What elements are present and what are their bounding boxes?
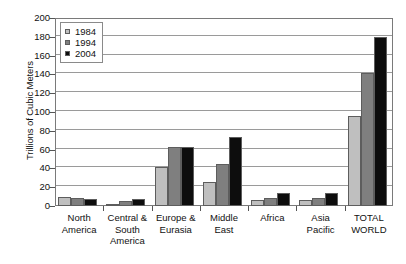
x-axis-label: Africa xyxy=(248,212,296,224)
y-tick-label-180: 180 xyxy=(10,31,50,42)
y-tick-label-200: 200 xyxy=(10,12,50,23)
x-axis-label: MiddleEast xyxy=(200,212,248,235)
y-tick-label-40: 40 xyxy=(10,162,50,173)
x-axis-label-line: Central & xyxy=(103,212,151,224)
x-axis-separator xyxy=(248,206,249,211)
x-axis-label-line: Asia xyxy=(296,212,344,224)
gridline-180 xyxy=(56,35,392,36)
y-tick-label-120: 120 xyxy=(10,87,50,98)
y-tick-label-100: 100 xyxy=(10,106,50,117)
x-axis-label: NorthAmerica xyxy=(55,212,103,235)
gridline-100 xyxy=(56,110,392,111)
gridline-40 xyxy=(56,166,392,167)
x-axis-label-line: Europe & xyxy=(152,212,200,224)
x-axis-separator xyxy=(345,206,346,211)
x-axis-label-line: North xyxy=(55,212,103,224)
x-axis-separator xyxy=(200,206,201,211)
x-axis-label-line: Middle xyxy=(200,212,248,224)
legend-label: 1994 xyxy=(75,37,96,48)
y-tick-label-0: 0 xyxy=(10,200,50,211)
legend-swatch-icon xyxy=(65,51,70,56)
y-tick-label-80: 80 xyxy=(10,125,50,136)
x-axis-label-line: WORLD xyxy=(345,224,393,236)
x-axis-label-line: America xyxy=(103,235,151,247)
bar-chart: Trillions of Cubic Meters 02040608010012… xyxy=(0,0,406,264)
chart-legend: 198419942004 xyxy=(60,22,103,63)
legend-item: 1984 xyxy=(65,26,96,37)
x-axis-label-line: South xyxy=(103,224,151,236)
gridline-160 xyxy=(56,54,392,55)
gridline-120 xyxy=(56,91,392,92)
y-tick-label-140: 140 xyxy=(10,68,50,79)
x-axis-label: AsiaPacific xyxy=(296,212,344,235)
x-axis-label-line: Africa xyxy=(248,212,296,224)
x-axis-label-line: Eurasia xyxy=(152,224,200,236)
y-tick-label-60: 60 xyxy=(10,144,50,155)
legend-swatch-icon xyxy=(65,29,70,34)
x-axis-label: Europe &Eurasia xyxy=(152,212,200,235)
gridline-140 xyxy=(56,72,392,73)
y-tick-label-20: 20 xyxy=(10,181,50,192)
x-axis-separator xyxy=(103,206,104,211)
legend-label: 1984 xyxy=(75,26,96,37)
legend-item: 2004 xyxy=(65,48,96,59)
gridline-20 xyxy=(56,185,392,186)
gridline-60 xyxy=(56,148,392,149)
x-axis-label-line: America xyxy=(55,224,103,236)
y-tick-label-160: 160 xyxy=(10,50,50,61)
x-axis-label: TOTALWORLD xyxy=(345,212,393,235)
gridline-80 xyxy=(56,129,392,130)
x-axis-label-line: Pacific xyxy=(296,224,344,236)
y-tick-mark-0 xyxy=(49,206,55,207)
legend-label: 2004 xyxy=(75,48,96,59)
x-axis-label-line: TOTAL xyxy=(345,212,393,224)
x-axis-label-line: East xyxy=(200,224,248,236)
legend-item: 1994 xyxy=(65,37,96,48)
x-axis-label: Central &SouthAmerica xyxy=(103,212,151,247)
plot-area xyxy=(55,18,393,206)
x-axis-separator xyxy=(296,206,297,211)
x-axis-separator xyxy=(152,206,153,211)
legend-swatch-icon xyxy=(65,40,70,45)
